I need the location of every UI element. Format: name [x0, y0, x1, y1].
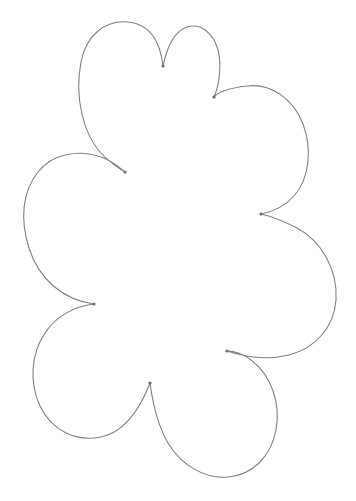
canvas-background: [0, 0, 356, 501]
cusp-upper-right: [212, 95, 215, 98]
cusp-top-center: [161, 64, 164, 67]
cusp-left-lower: [92, 302, 95, 305]
cusp-right-middle: [259, 212, 262, 215]
cusp-lower-right: [225, 349, 228, 352]
flower-outline-svg: [0, 0, 356, 501]
cusp-left-upper: [123, 170, 126, 173]
cusp-bottom-center: [148, 381, 151, 384]
drawing-canvas: [0, 0, 356, 501]
